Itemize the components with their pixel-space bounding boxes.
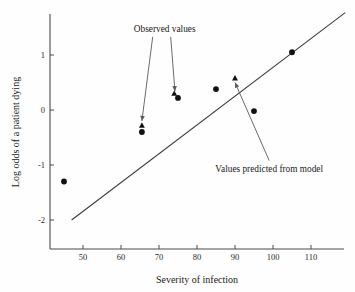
x-tick-label: 50 <box>79 252 88 262</box>
scatter-plot: 5060708090100110 10-1-2 Observed valuesV… <box>0 0 355 292</box>
annotation-arrow-line <box>235 83 269 161</box>
observed-value-marker <box>213 86 219 92</box>
y-axis-ticks: 10-1-2 <box>38 50 54 225</box>
annotation-arrowhead <box>172 86 177 91</box>
x-tick-label: 100 <box>267 252 280 262</box>
predicted-value-marker <box>232 75 238 80</box>
annotation-arrow-line <box>171 37 175 91</box>
observed-value-marker <box>251 108 257 114</box>
x-tick-label: 60 <box>117 252 126 262</box>
x-tick-label: 110 <box>305 252 317 262</box>
axes-group <box>50 14 344 249</box>
regression-line <box>72 13 346 220</box>
observed-value-marker <box>139 129 145 135</box>
x-tick-label: 80 <box>193 252 202 262</box>
predicted-value-marker <box>139 122 145 127</box>
x-tick-label: 70 <box>155 252 164 262</box>
predicted-values-series <box>139 75 238 128</box>
chart-figure: 5060708090100110 10-1-2 Observed valuesV… <box>0 0 355 292</box>
y-tick-label: 0 <box>41 105 45 115</box>
x-axis-title: Severity of infection <box>156 274 238 285</box>
observed-value-marker <box>289 49 295 55</box>
annotation-arrow-line <box>142 37 153 121</box>
y-tick-label: 1 <box>41 50 45 60</box>
x-tick-label: 90 <box>231 252 240 262</box>
annotation-arrowhead <box>140 116 145 121</box>
predicted-value-marker <box>171 90 177 95</box>
model-fit-line <box>72 13 346 220</box>
observed-value-marker <box>175 95 181 101</box>
observed-value-marker <box>61 179 67 185</box>
y-tick-label: -2 <box>38 215 45 225</box>
annotation-label: Observed values <box>134 24 196 34</box>
y-tick-label: -1 <box>38 160 45 170</box>
y-axis-title: Log odds of a patient dying <box>10 77 21 187</box>
annotation-label: Values predicted from model <box>215 164 323 174</box>
annotation-leaders <box>140 37 269 161</box>
x-axis-ticks: 5060708090100110 <box>79 245 317 262</box>
